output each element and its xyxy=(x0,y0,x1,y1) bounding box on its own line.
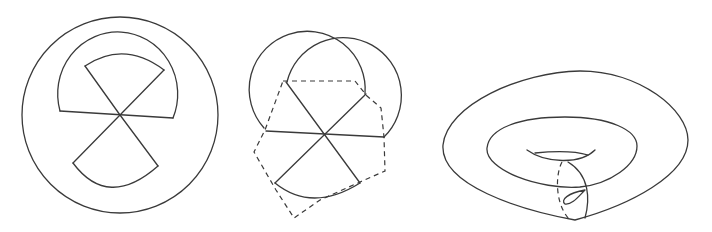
figure-left-circle-wedges xyxy=(22,17,218,213)
lower-wedge-sides xyxy=(73,115,158,166)
upper-wedge-sides xyxy=(85,66,164,115)
horizontal-chord xyxy=(60,111,173,118)
lower-wedge-arc xyxy=(73,163,158,187)
figure-right-torus xyxy=(443,71,688,220)
torus-hole-upper-curve xyxy=(535,152,588,155)
right-circle-arc xyxy=(287,38,401,137)
diagram-canvas xyxy=(0,0,712,232)
ray-line-2 xyxy=(275,94,366,183)
lower-wedge-arc xyxy=(275,183,360,198)
meridian-back-dashed-arc xyxy=(557,162,570,220)
twisted-small-loop xyxy=(564,190,585,204)
figure-middle-overlapping-circles xyxy=(249,31,401,218)
left-circle-arc xyxy=(249,31,365,128)
upper-wedge-arc xyxy=(85,54,164,70)
